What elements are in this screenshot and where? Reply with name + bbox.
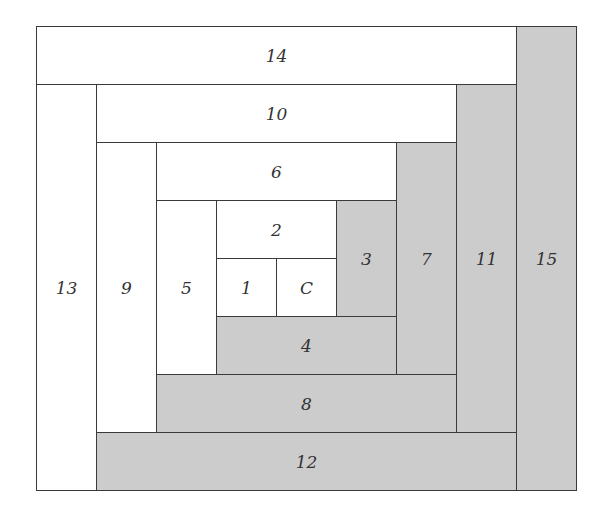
piece-label: 9	[121, 278, 132, 298]
piece-label: 14	[266, 46, 288, 66]
piece-1: 1	[216, 258, 277, 317]
piece-5: 5	[156, 200, 217, 375]
piece-3: 3	[336, 200, 397, 317]
piece-label: 5	[181, 278, 192, 298]
piece-12: 12	[96, 432, 517, 491]
piece-label: C	[300, 278, 313, 298]
piece-6: 6	[156, 142, 397, 201]
piece-10: 10	[96, 84, 457, 143]
piece-c: C	[276, 258, 337, 317]
piece-label: 12	[296, 452, 318, 472]
piece-8: 8	[156, 374, 457, 433]
piece-label: 3	[361, 249, 372, 269]
piece-label: 7	[421, 249, 432, 269]
piece-label: 4	[301, 336, 312, 356]
piece-label: 11	[476, 249, 498, 269]
piece-13: 13	[36, 84, 97, 491]
piece-11: 11	[456, 84, 517, 433]
piece-label: 10	[266, 104, 288, 124]
piece-label: 2	[271, 220, 282, 240]
piece-2: 2	[216, 200, 337, 259]
piece-7: 7	[396, 142, 457, 375]
piece-label: 1	[241, 278, 252, 298]
piece-14: 14	[36, 26, 517, 85]
piece-15: 15	[516, 26, 577, 491]
piece-9: 9	[96, 142, 157, 433]
piece-4: 4	[216, 316, 397, 375]
piece-label: 15	[536, 249, 558, 269]
piece-label: 13	[56, 278, 78, 298]
piece-label: 6	[271, 162, 282, 182]
piece-label: 8	[301, 394, 312, 414]
